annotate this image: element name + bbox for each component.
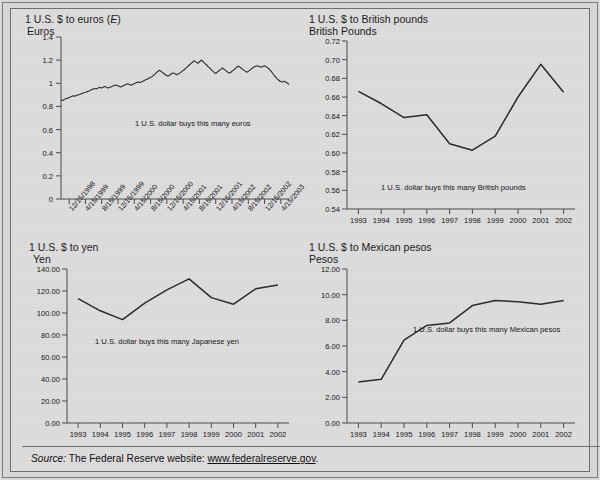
y-tick-euro-1: 0.2 <box>27 172 53 181</box>
x-tick-peso-3: 1996 <box>415 430 439 439</box>
y-tick-yen-0: 0.00 <box>30 419 60 428</box>
y-tick-yen-2: 40.00 <box>30 375 60 384</box>
x-tick-peso-9: 2002 <box>552 430 576 439</box>
y-tick-yen-3: 60.00 <box>30 353 60 362</box>
y-tick-peso-3: 6.00 <box>314 342 340 351</box>
figure-inner-frame: 1 U.S. $ to euros (E) Euros <box>10 8 590 472</box>
x-tick-pound-3: 1996 <box>415 216 439 225</box>
plot-svg-peso <box>303 241 587 441</box>
y-tick-euro-5: 1 <box>27 79 53 88</box>
source-period: . <box>315 453 318 464</box>
x-tick-yen-8: 2001 <box>244 430 268 439</box>
y-tick-yen-4: 80.00 <box>30 331 60 340</box>
plot-svg-pound <box>303 13 587 238</box>
x-tick-pound-1: 1994 <box>369 216 393 225</box>
y-tick-yen-7: 140.00 <box>30 265 60 274</box>
x-tick-peso-6: 1999 <box>483 430 507 439</box>
plot-area-pound <box>303 13 587 238</box>
x-tick-yen-3: 1996 <box>133 430 157 439</box>
y-tick-pound-4: 0.62 <box>318 130 340 139</box>
y-tick-peso-1: 2.00 <box>314 393 340 402</box>
y-tick-peso-6: 12.00 <box>314 265 340 274</box>
source-text: The Federal Reserve website: <box>69 453 205 464</box>
x-tick-peso-0: 1993 <box>346 430 370 439</box>
y-tick-peso-5: 10.00 <box>314 291 340 300</box>
x-tick-yen-5: 1998 <box>177 430 201 439</box>
figure-page: 1 U.S. $ to euros (E) Euros <box>0 0 600 480</box>
y-tick-pound-8: 0.70 <box>318 56 340 65</box>
x-tick-pound-4: 1997 <box>438 216 462 225</box>
x-tick-yen-2: 1995 <box>111 430 135 439</box>
y-tick-pound-0: 0.54 <box>318 205 340 214</box>
x-tick-yen-4: 1997 <box>155 430 179 439</box>
x-tick-yen-0: 1993 <box>66 430 90 439</box>
x-tick-peso-7: 2000 <box>506 430 530 439</box>
x-tick-peso-4: 1997 <box>438 430 462 439</box>
source-note: Source: The Federal Reserve website: www… <box>31 453 318 464</box>
annotation-yen: 1 U.S. dollar buys this many Japanese ye… <box>95 337 239 346</box>
y-tick-pound-5: 0.64 <box>318 112 340 121</box>
y-tick-euro-3: 0.6 <box>27 126 53 135</box>
footer-divider <box>22 446 600 447</box>
x-tick-pound-0: 1993 <box>346 216 370 225</box>
y-tick-peso-2: 4.00 <box>314 368 340 377</box>
x-tick-peso-5: 1998 <box>460 430 484 439</box>
x-tick-peso-1: 1994 <box>369 430 393 439</box>
x-tick-peso-2: 1995 <box>392 430 416 439</box>
y-tick-pound-3: 0.60 <box>318 149 340 158</box>
y-tick-pound-1: 0.56 <box>318 186 340 195</box>
x-tick-pound-9: 2002 <box>552 216 576 225</box>
annotation-euro: 1 U.S. dollar buys this many euros <box>135 119 251 128</box>
x-tick-pound-7: 2000 <box>506 216 530 225</box>
x-tick-yen-7: 2000 <box>222 430 246 439</box>
x-tick-pound-8: 2001 <box>529 216 553 225</box>
y-tick-peso-4: 8.00 <box>314 316 340 325</box>
chart-panel-pound: 1 U.S. $ to British pounds British Pound… <box>303 13 587 238</box>
plot-area-peso <box>303 241 587 441</box>
x-tick-yen-6: 1999 <box>199 430 223 439</box>
chart-panel-peso: 1 U.S. $ to Mexican pesos Pesos 1 U.S. d… <box>303 241 587 441</box>
y-tick-euro-7: 1.4 <box>27 33 53 42</box>
y-tick-euro-2: 0.4 <box>27 149 53 158</box>
y-tick-yen-5: 100.00 <box>30 309 60 318</box>
x-tick-pound-6: 1999 <box>483 216 507 225</box>
x-tick-yen-9: 2002 <box>266 430 290 439</box>
y-tick-pound-9: 0.72 <box>318 37 340 46</box>
y-tick-yen-6: 120.00 <box>30 287 60 296</box>
y-tick-euro-6: 1.2 <box>27 56 53 65</box>
source-url-link[interactable]: www.federalreserve.gov <box>208 453 316 464</box>
y-tick-euro-0: 0 <box>27 195 53 204</box>
y-tick-yen-1: 20.00 <box>30 397 60 406</box>
x-tick-pound-2: 1995 <box>392 216 416 225</box>
chart-panel-euro: 1 U.S. $ to euros (E) Euros <box>19 13 299 238</box>
x-tick-yen-1: 1994 <box>88 430 112 439</box>
y-tick-euro-4: 0.8 <box>27 102 53 111</box>
annotation-peso: 1 U.S. dollar buys this many Mexican pes… <box>413 325 560 334</box>
y-tick-pound-2: 0.58 <box>318 168 340 177</box>
chart-panel-yen: 1 U.S. $ to yen Yen 1 U.S. dollar buys t… <box>19 241 299 441</box>
x-tick-pound-5: 1998 <box>460 216 484 225</box>
annotation-pound: 1 U.S. dollar buys this many British pou… <box>381 183 526 192</box>
y-tick-peso-0: 0.00 <box>314 419 340 428</box>
y-tick-pound-7: 0.68 <box>318 74 340 83</box>
y-tick-pound-6: 0.66 <box>318 93 340 102</box>
x-tick-peso-8: 2001 <box>529 430 553 439</box>
source-label: Source: <box>31 453 66 464</box>
